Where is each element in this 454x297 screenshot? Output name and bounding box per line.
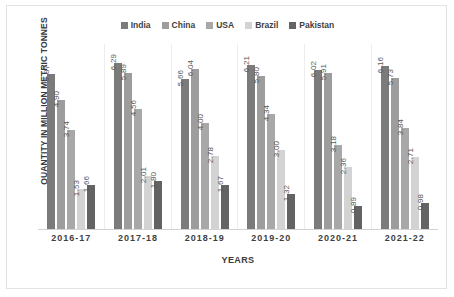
bar-value-label: 2.01 [139, 167, 148, 183]
bar-group-2017-18: 6.295.894.562.011.80 [105, 44, 172, 229]
bar-value-label: 5.73 [386, 68, 395, 84]
bar-rect[interactable] [314, 70, 322, 229]
legend-item-india[interactable]: India [121, 20, 151, 30]
bar-value-label: 1.80 [149, 172, 158, 188]
bar-china-2021-22[interactable]: 5.73 [391, 78, 399, 229]
bar-india-2020-21[interactable]: 6.02 [314, 70, 322, 229]
bar-pakistan-2018-19[interactable]: 1.67 [221, 185, 229, 229]
bar-pakistan-2016-17[interactable]: 1.66 [87, 185, 95, 229]
x-axis-tick-labels: 2016-172017-182018-192019-202020-212021-… [38, 233, 438, 243]
bar-rect[interactable] [201, 123, 209, 229]
bar-value-label: 4.34 [262, 105, 271, 121]
bar-china-2018-19[interactable]: 6.04 [191, 69, 199, 229]
bar-india-2021-22[interactable]: 6.16 [381, 66, 389, 229]
bar-value-label: 6.04 [186, 60, 195, 76]
legend-item-brazil[interactable]: Brazil [245, 20, 278, 30]
chart-legend: IndiaChinaUSABrazilPakistan [7, 20, 448, 30]
bar-value-label: 3.18 [329, 136, 338, 152]
bar-value-label: 5.91 [319, 64, 328, 80]
legend-label: USA [216, 20, 234, 30]
bar-rect[interactable] [257, 76, 265, 229]
bar-group-2020-21: 6.025.913.182.360.89 [305, 44, 372, 229]
bar-value-label: 1.67 [216, 176, 225, 192]
legend-label: China [172, 20, 196, 30]
legend-label: Brazil [255, 20, 278, 30]
legend-item-china[interactable]: China [162, 20, 196, 30]
legend-swatch-icon [245, 22, 252, 29]
x-tick-label-2019-20: 2019-20 [238, 233, 305, 243]
bar-rect[interactable] [114, 63, 122, 229]
bar-usa-2021-22[interactable]: 3.84 [401, 128, 409, 230]
bar-rect[interactable] [211, 156, 219, 230]
bar-group-2019-20: 6.215.804.343.001.32 [238, 44, 305, 229]
bar-value-label: 5.87 [42, 65, 51, 81]
x-tick-label-2020-21: 2020-21 [305, 233, 372, 243]
x-tick-label-2016-17: 2016-17 [38, 233, 105, 243]
bar-pakistan-2017-18[interactable]: 1.80 [154, 181, 162, 229]
legend-swatch-icon [121, 22, 128, 29]
bar-pakistan-2021-22[interactable]: 0.98 [421, 203, 429, 229]
legend-label: Pakistan [299, 20, 334, 30]
bar-value-label: 1.53 [72, 179, 81, 195]
bar-rect[interactable] [267, 114, 275, 229]
bar-value-label: 5.89 [119, 64, 128, 80]
bar-value-label: 5.80 [252, 67, 261, 83]
bar-china-2016-17[interactable]: 4.90 [57, 100, 65, 230]
bar-value-label: 5.66 [176, 70, 185, 86]
bar-value-label: 6.29 [109, 54, 118, 70]
x-axis-title: YEARS [38, 255, 438, 265]
bar-value-label: 1.66 [82, 176, 91, 192]
bar-usa-2019-20[interactable]: 4.34 [267, 114, 275, 229]
bar-value-label: 3.74 [62, 121, 71, 137]
bar-brazil-2018-19[interactable]: 2.78 [211, 156, 219, 230]
bar-value-label: 2.71 [406, 148, 415, 164]
bar-india-2019-20[interactable]: 6.21 [247, 65, 255, 229]
bar-rect[interactable] [124, 73, 132, 229]
legend-swatch-icon [289, 22, 296, 29]
plot-area: 5.874.903.741.531.666.295.894.562.011.80… [38, 44, 438, 230]
bar-value-label: 6.16 [376, 57, 385, 73]
bar-india-2017-18[interactable]: 6.29 [114, 63, 122, 229]
bar-rect[interactable] [154, 181, 162, 229]
bar-value-label: 4.00 [196, 114, 205, 130]
bar-group-2018-19: 5.666.044.002.781.67 [172, 44, 239, 229]
legend-swatch-icon [206, 22, 213, 29]
legend-item-pakistan[interactable]: Pakistan [289, 20, 334, 30]
bar-value-label: 3.84 [396, 118, 405, 134]
bar-value-label: 0.98 [416, 194, 425, 210]
legend-swatch-icon [162, 22, 169, 29]
x-tick-label-2017-18: 2017-18 [105, 233, 172, 243]
x-tick-label-2021-22: 2021-22 [371, 233, 438, 243]
bar-value-label: 2.36 [339, 157, 348, 173]
bar-value-label: 3.00 [272, 141, 281, 157]
bar-value-label: 1.32 [282, 185, 291, 201]
bar-value-label: 2.78 [206, 146, 215, 162]
bar-rect[interactable] [181, 79, 189, 229]
bar-rect[interactable] [57, 100, 65, 230]
bar-rect[interactable] [247, 65, 255, 229]
bar-value-label: 6.02 [309, 61, 318, 77]
bar-group-2016-17: 5.874.903.741.531.66 [38, 44, 105, 229]
bar-china-2017-18[interactable]: 5.89 [124, 73, 132, 229]
bar-usa-2018-19[interactable]: 4.00 [201, 123, 209, 229]
bar-pakistan-2020-21[interactable]: 0.89 [354, 206, 362, 230]
bar-pakistan-2019-20[interactable]: 1.32 [287, 194, 295, 229]
bar-rect[interactable] [191, 69, 199, 229]
bar-value-label: 6.21 [242, 56, 251, 72]
bar-india-2018-19[interactable]: 5.66 [181, 79, 189, 229]
bar-rect[interactable] [401, 128, 409, 230]
bar-value-label: 0.89 [349, 196, 358, 212]
bar-group-2021-22: 6.165.733.842.710.98 [372, 44, 438, 229]
legend-item-usa[interactable]: USA [206, 20, 234, 30]
bar-value-label: 4.90 [52, 90, 61, 106]
legend-label: India [131, 20, 151, 30]
bar-value-label: 4.56 [129, 99, 138, 115]
x-tick-label-2018-19: 2018-19 [171, 233, 238, 243]
chart-container: QUANTITY IN MILLION METRIC TONNES IndiaC… [6, 5, 447, 289]
bar-rect[interactable] [391, 78, 399, 229]
bar-rect[interactable] [381, 66, 389, 229]
bar-china-2019-20[interactable]: 5.80 [257, 76, 265, 229]
bar-brazil-2016-17[interactable]: 1.53 [77, 189, 85, 229]
